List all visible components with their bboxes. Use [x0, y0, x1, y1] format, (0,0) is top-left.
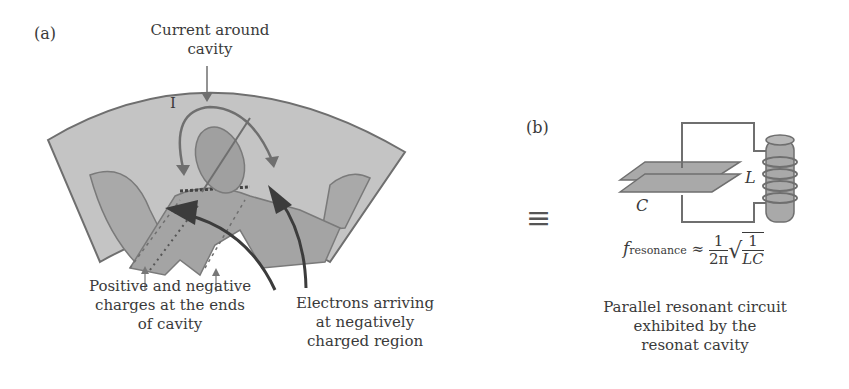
electrons-label-line2: at negatively	[280, 313, 450, 332]
formula-fraction-2: 1 LC	[742, 232, 763, 268]
current-symbol: I	[170, 94, 176, 112]
charges-label-line2: charges at the ends	[70, 296, 270, 315]
frac2-denominator: LC	[742, 251, 763, 268]
panel-a-label: (a)	[34, 24, 56, 43]
charges-label: Positive and negative charges at the end…	[70, 277, 270, 334]
sqrt-icon: √	[728, 238, 742, 263]
frac2-numerator: 1	[742, 233, 763, 251]
current-label-line1: Current around	[125, 21, 295, 40]
capacitor-label: C	[636, 196, 648, 215]
inductor-label: L	[745, 168, 756, 187]
electrons-label-line3: charged region	[280, 332, 450, 351]
formula-fraction-1: 1 2π	[709, 233, 728, 268]
caption-line2: exhibited by the	[585, 317, 805, 336]
formula-approx: ≈	[692, 240, 705, 258]
equivalence-symbol: ≡	[526, 200, 551, 235]
frac1-numerator: 1	[709, 233, 728, 251]
frac1-denominator: 2π	[709, 251, 728, 268]
panel-b-label: (b)	[526, 118, 549, 137]
panel-b-caption: Parallel resonant circuit exhibited by t…	[585, 298, 805, 355]
charges-label-line3: of cavity	[70, 315, 270, 334]
formula-subscript: resonance	[629, 244, 686, 257]
caption-line1: Parallel resonant circuit	[585, 298, 805, 317]
caption-line3: resonat cavity	[585, 336, 805, 355]
charges-label-line1: Positive and negative	[70, 277, 270, 296]
electrons-label-line1: Electrons arriving	[280, 294, 450, 313]
resonance-formula: fresonance ≈ 1 2π √ 1 LC	[623, 232, 764, 268]
charge-pointer-2-icon	[212, 268, 220, 276]
electrons-label: Electrons arriving at negatively charged…	[280, 294, 450, 351]
current-label-line2: cavity	[125, 40, 295, 59]
current-label: Current around cavity	[125, 21, 295, 59]
